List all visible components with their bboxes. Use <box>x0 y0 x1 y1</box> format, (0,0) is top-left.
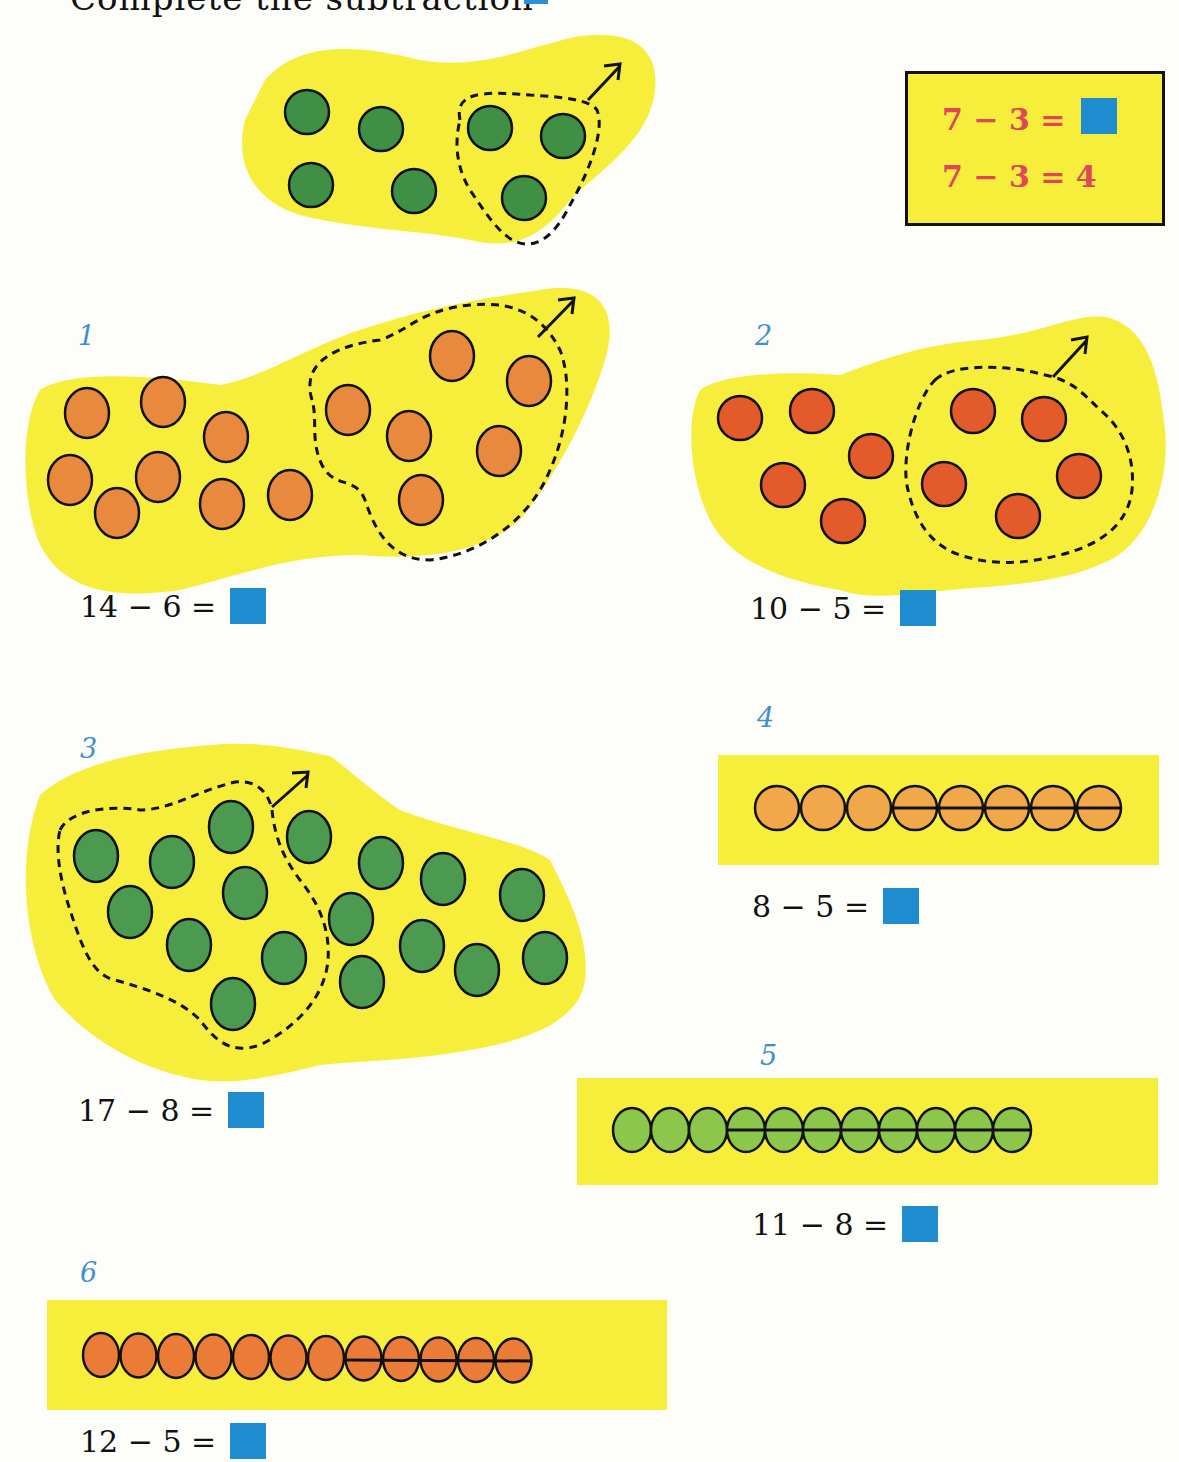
problem-6-equation-row: 12 − 5 = <box>80 1423 266 1459</box>
problem-3-equation-row: 17 − 8 = <box>78 1092 264 1128</box>
problem-2-equation-row: 10 − 5 = <box>750 590 936 626</box>
problem-6-number: 6 <box>80 1257 97 1288</box>
problem-1-answer-box[interactable] <box>230 588 266 624</box>
problem-4-equation-row: 8 − 5 = <box>752 888 919 924</box>
problem-4-strip <box>718 755 1159 865</box>
problem-3-equation: 17 − 8 = <box>78 1093 214 1128</box>
problem-1-equation: 14 − 6 = <box>80 589 216 624</box>
problem-1-equation-row: 14 − 6 = <box>80 588 266 624</box>
problem-5-equation: 11 − 8 = <box>752 1207 888 1242</box>
problem-2-number: 2 <box>755 320 772 351</box>
example-box: 7 − 3 = 7 − 3 = 4 <box>905 71 1165 226</box>
problem-5-strip <box>577 1078 1158 1185</box>
problem-3-number: 3 <box>80 733 97 764</box>
problem-2-equation: 10 − 5 = <box>750 591 886 626</box>
problem-5-answer-box[interactable] <box>902 1206 938 1242</box>
problem-4-number: 4 <box>757 702 774 733</box>
problem-5-number: 5 <box>760 1040 777 1071</box>
problem-6-answer-box[interactable] <box>230 1423 266 1459</box>
problem-4-equation: 8 − 5 = <box>752 889 869 924</box>
example-equation-solved: 7 − 3 = 4 <box>942 159 1097 194</box>
example-equation-blank: 7 − 3 = <box>942 102 1065 137</box>
problem-5-equation-row: 11 − 8 = <box>752 1206 938 1242</box>
problem-6-equation: 12 − 5 = <box>80 1424 216 1459</box>
problem-2-answer-box[interactable] <box>900 590 936 626</box>
problem-4-answer-box[interactable] <box>883 888 919 924</box>
problem-3-answer-box[interactable] <box>228 1092 264 1128</box>
problem-1-number: 1 <box>78 320 95 351</box>
header-answer-box <box>524 0 548 4</box>
instruction-header: Complete the subtraction <box>70 0 534 18</box>
problem-6-strip <box>47 1300 667 1410</box>
example-answer-box <box>1081 98 1117 134</box>
